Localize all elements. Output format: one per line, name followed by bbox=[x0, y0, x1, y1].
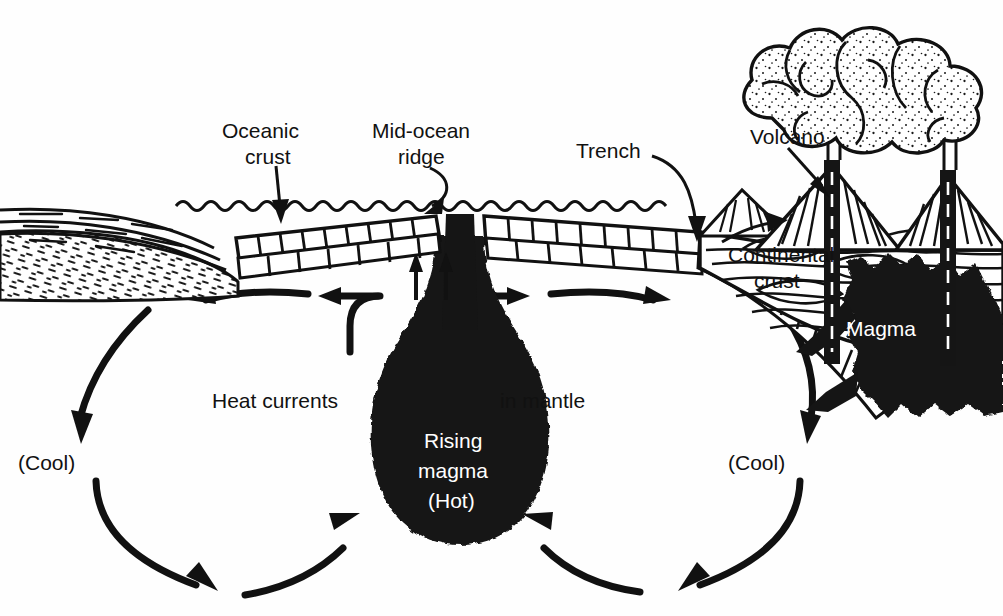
diagram-canvas: Oceanic crust Mid-ocean ridge Trench Vol… bbox=[0, 0, 1003, 616]
label-rising-magma-line1: Rising bbox=[424, 429, 482, 452]
label-rising-magma-line2: magma bbox=[418, 459, 488, 482]
label-heat-currents: Heat currents bbox=[212, 389, 338, 412]
label-trench: Trench bbox=[576, 139, 641, 162]
label-continental-crust-line2: crust bbox=[754, 269, 800, 292]
volcano-conduit-2 bbox=[940, 170, 956, 366]
label-mid-ocean-ridge-line1: Mid-ocean bbox=[372, 119, 470, 142]
label-magma-body: Magma bbox=[846, 317, 916, 340]
label-cool-left: (Cool) bbox=[18, 451, 75, 474]
label-in-mantle: in mantle bbox=[500, 389, 585, 412]
label-cool-right: (Cool) bbox=[728, 451, 785, 474]
plate-tectonics-diagram: Oceanic crust Mid-ocean ridge Trench Vol… bbox=[0, 0, 1003, 616]
label-oceanic-crust-line1: Oceanic bbox=[222, 119, 299, 142]
label-oceanic-crust-line2: crust bbox=[245, 145, 291, 168]
label-rising-magma-line3: (Hot) bbox=[428, 489, 475, 512]
label-volcano: Volcano bbox=[750, 125, 825, 148]
label-continental-crust-line1: Continental bbox=[728, 243, 834, 266]
label-mid-ocean-ridge-line2: ridge bbox=[398, 145, 445, 168]
